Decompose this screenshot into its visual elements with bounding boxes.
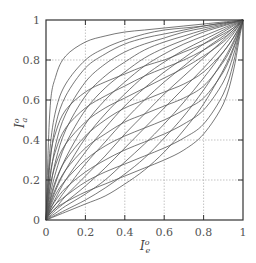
y-tick-label: 0 bbox=[33, 214, 40, 227]
chart: 00.20.40.60.81 00.20.40.60.81 Ioe Ioa bbox=[0, 0, 256, 263]
x-tick-label: 0.8 bbox=[195, 226, 213, 239]
x-tick-label: 1 bbox=[240, 226, 247, 239]
curve-c5 bbox=[46, 20, 243, 220]
y-tick-label: 1 bbox=[33, 14, 40, 27]
y-axis-label: Ioa bbox=[12, 117, 29, 129]
x-tick-label: 0.4 bbox=[116, 226, 134, 239]
y-tick-label: 0.2 bbox=[23, 174, 41, 187]
x-axis-label: Ioe bbox=[139, 238, 151, 255]
curve-family bbox=[46, 20, 243, 220]
x-tick-label: 0.6 bbox=[155, 226, 173, 239]
x-tick-label: 0 bbox=[43, 226, 50, 239]
y-tick-label: 0.8 bbox=[23, 54, 41, 67]
y-tick-label: 0.6 bbox=[23, 94, 41, 107]
x-tick-label: 0.2 bbox=[77, 226, 95, 239]
y-tick-label: 0.4 bbox=[23, 134, 41, 147]
